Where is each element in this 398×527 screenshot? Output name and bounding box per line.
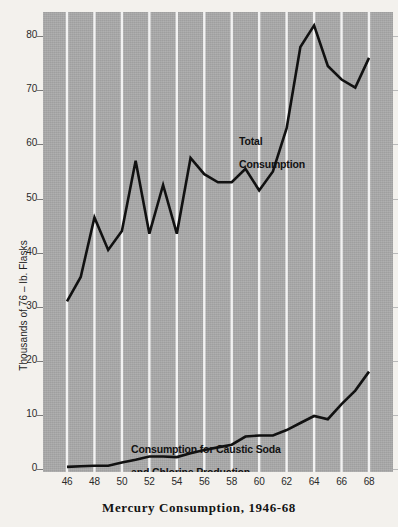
y-tick-mark-right-0 [393,469,398,470]
mercury-consumption-figure: Total Consumption Consumption for Causti… [0,0,398,527]
y-tick-mark-right-80 [393,36,398,37]
y-tick-mark-80 [36,36,43,37]
series-label-caustic-line-1: Consumption for Caustic Soda [131,444,281,456]
y-tick-mark-right-50 [393,199,398,200]
y-tick-mark-0 [36,469,43,470]
y-tick-mark-70 [36,90,43,91]
x-tick-label-60: 60 [246,476,272,487]
y-tick-mark-20 [36,361,43,362]
y-tick-label-60: 60 [9,137,37,148]
x-tick-label-68: 68 [356,476,382,487]
x-tick-label-48: 48 [81,476,107,487]
x-tick-label-64: 64 [301,476,327,487]
y-tick-mark-30 [36,307,43,308]
series-label-caustic-line-2: and Chlorine Production [131,467,281,473]
y-tick-mark-right-70 [393,90,398,91]
y-tick-mark-10 [36,415,43,416]
x-tick-label-52: 52 [136,476,162,487]
y-tick-label-0: 0 [9,462,37,473]
x-tick-label-50: 50 [109,476,135,487]
x-tick-label-58: 58 [219,476,245,487]
y-tick-label-70: 70 [9,83,37,94]
chart-title: Mercury Consumption, 1946-68 [0,500,398,516]
y-tick-label-50: 50 [9,192,37,203]
series-label-total-line-1: Total [239,136,305,148]
series-label-caustic-soda: Consumption for Caustic Soda and Chlorin… [131,432,281,472]
y-tick-mark-right-10 [393,415,398,416]
series-line-0 [67,25,369,301]
series-label-total-line-2: Consumption [239,159,305,171]
plot-area: Total Consumption Consumption for Causti… [43,12,393,472]
y-tick-mark-right-60 [393,144,398,145]
x-tick-label-62: 62 [274,476,300,487]
x-tick-label-46: 46 [54,476,80,487]
y-tick-mark-40 [36,253,43,254]
x-tick-label-56: 56 [191,476,217,487]
y-tick-mark-right-30 [393,307,398,308]
y-axis-title: Thousands of 76 – lb. Flasks [18,221,29,391]
series-label-total-consumption: Total Consumption [239,124,305,182]
data-series-lines [43,12,393,472]
y-tick-mark-50 [36,199,43,200]
x-tick-label-66: 66 [329,476,355,487]
y-tick-label-80: 80 [9,29,37,40]
y-tick-mark-right-40 [393,253,398,254]
y-tick-mark-60 [36,144,43,145]
y-tick-mark-right-20 [393,361,398,362]
x-tick-label-54: 54 [164,476,190,487]
y-tick-label-10: 10 [9,408,37,419]
